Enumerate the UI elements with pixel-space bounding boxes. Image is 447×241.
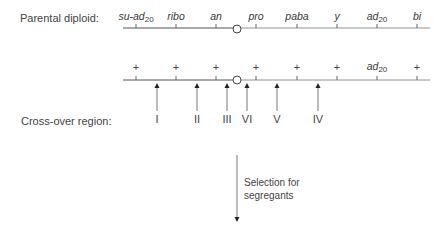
selection-note-line1: Selection for <box>244 176 300 189</box>
selection-note-line2: segregants <box>244 189 300 202</box>
region-label-V: V <box>273 113 280 125</box>
region-label-VI: VI <box>242 113 252 125</box>
centromere-icon <box>233 76 241 84</box>
selection-note: Selection for segregants <box>244 176 300 202</box>
chromosome-top <box>123 24 430 33</box>
region-label-I: I <box>155 113 158 125</box>
centromere-icon <box>233 25 241 33</box>
selection-arrow <box>235 155 240 222</box>
chromosome-bottom <box>123 76 430 84</box>
region-label-III: III <box>222 113 231 125</box>
region-label-II: II <box>194 113 200 125</box>
region-label-IV: IV <box>313 113 323 125</box>
crossover-arrows <box>155 83 321 111</box>
